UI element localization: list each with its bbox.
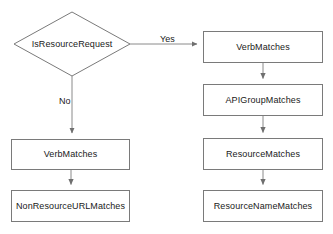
node-shape-non-resource-url-matches[interactable] bbox=[12, 191, 130, 222]
node-shape-right-resource-matches[interactable] bbox=[204, 139, 323, 170]
flowchart-canvas: IsResourceRequest VerbMatches APIGroupMa… bbox=[0, 0, 333, 234]
flowchart-svg bbox=[0, 0, 333, 234]
node-shape-resource-name-matches[interactable] bbox=[204, 191, 323, 222]
node-shape-left-verb-matches[interactable] bbox=[12, 140, 130, 170]
node-shape-is-resource-request[interactable] bbox=[14, 12, 130, 76]
node-shape-api-group-matches[interactable] bbox=[204, 85, 323, 116]
node-shape-right-verb-matches[interactable] bbox=[204, 32, 323, 63]
